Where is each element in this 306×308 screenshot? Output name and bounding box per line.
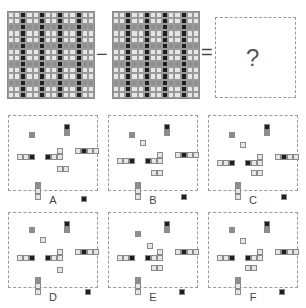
answer-box: ?	[215, 17, 296, 98]
tile	[257, 249, 263, 255]
tile	[129, 132, 135, 138]
tile	[64, 130, 70, 136]
option-label: C	[243, 194, 263, 206]
tile	[279, 289, 285, 295]
tile	[281, 194, 287, 200]
tile	[193, 152, 199, 158]
tile	[57, 255, 63, 261]
option-label: F	[243, 291, 263, 303]
tile	[164, 227, 170, 233]
option-f[interactable]	[208, 212, 298, 288]
tile	[35, 194, 41, 200]
option-c[interactable]	[208, 115, 298, 191]
tile	[57, 154, 63, 160]
tile	[135, 289, 141, 295]
option-b[interactable]	[108, 115, 198, 191]
tile	[29, 154, 35, 160]
tile	[57, 148, 63, 154]
tile	[157, 255, 163, 261]
option-e[interactable]	[108, 212, 198, 288]
tile	[93, 249, 99, 255]
grid-cell	[88, 92, 94, 98]
option-d[interactable]	[8, 212, 98, 288]
tile	[257, 154, 263, 160]
tile	[157, 170, 163, 176]
tile	[157, 152, 163, 158]
tile	[29, 132, 35, 138]
option-a[interactable]	[8, 115, 98, 191]
tile	[57, 267, 63, 273]
tile	[257, 255, 263, 261]
tile	[293, 249, 299, 255]
tile	[140, 140, 146, 146]
tile	[157, 158, 163, 164]
tile	[129, 255, 135, 261]
tile	[193, 249, 199, 255]
tile	[81, 196, 87, 202]
source-grid	[7, 11, 95, 99]
grid-cell	[193, 92, 199, 98]
tile	[240, 142, 246, 148]
tile	[35, 289, 41, 295]
tile	[129, 158, 135, 164]
tile	[251, 265, 257, 271]
tile	[64, 227, 70, 233]
tile	[264, 227, 270, 233]
tile	[135, 194, 141, 200]
tile	[257, 160, 263, 166]
tile	[229, 255, 235, 261]
tile	[157, 265, 163, 271]
tile	[235, 289, 241, 295]
tile	[40, 237, 46, 243]
tile	[264, 130, 270, 136]
tile	[57, 249, 63, 255]
tile	[229, 227, 235, 233]
tile	[63, 166, 69, 172]
tile	[147, 243, 153, 249]
tile	[179, 289, 185, 295]
question-mark: ?	[246, 44, 259, 72]
tile	[29, 255, 35, 261]
tile	[157, 249, 163, 255]
tile	[293, 154, 299, 160]
tile	[164, 130, 170, 136]
tile	[229, 132, 235, 138]
tile	[181, 194, 187, 200]
tile	[29, 227, 35, 233]
option-label: D	[43, 291, 63, 303]
minus-operator: −	[96, 44, 108, 64]
option-label: A	[43, 194, 63, 206]
tile	[235, 194, 241, 200]
tile	[135, 231, 141, 237]
option-label: E	[143, 291, 163, 303]
tile	[257, 170, 263, 176]
option-label: B	[143, 194, 163, 206]
equals-operator: =	[201, 42, 213, 62]
tile	[93, 148, 99, 154]
tile	[229, 160, 235, 166]
tile	[240, 238, 246, 244]
subtrahend-grid	[112, 11, 200, 99]
tile	[85, 289, 91, 295]
